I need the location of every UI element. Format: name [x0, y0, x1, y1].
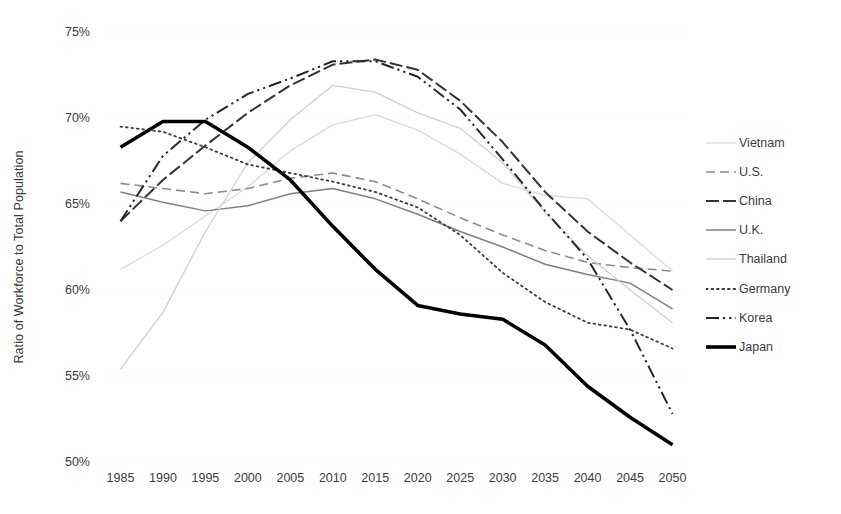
series-line-thailand — [121, 85, 673, 369]
series-line-uk — [121, 189, 673, 309]
legend-item-label: U.K. — [739, 223, 763, 237]
legend-line-swatch-icon — [706, 165, 736, 179]
legend-line-swatch-icon — [706, 136, 736, 150]
legend-item-us[interactable]: U.S. — [706, 157, 836, 186]
legend-item-label: Korea — [739, 311, 772, 325]
legend-line-swatch-icon — [706, 311, 736, 325]
legend-line-swatch-icon — [706, 282, 736, 296]
series-line-china — [121, 60, 673, 290]
series-line-korea — [121, 61, 673, 414]
legend-item-label: China — [739, 194, 772, 208]
legend-item-label: Vietnam — [739, 136, 785, 150]
legend-line-swatch-icon — [706, 340, 736, 354]
legend-item-japan[interactable]: Japan — [706, 332, 836, 361]
legend-item-label: Japan — [739, 340, 773, 354]
legend-item-label: Germany — [739, 282, 790, 296]
legend-item-china[interactable]: China — [706, 186, 836, 215]
series-line-japan — [121, 121, 673, 444]
legend-item-uk[interactable]: U.K. — [706, 216, 836, 245]
series-line-germany — [121, 127, 673, 349]
legend-item-vietnam[interactable]: Vietnam — [706, 128, 836, 157]
series-line-vietnam — [121, 115, 673, 272]
legend-line-swatch-icon — [706, 252, 736, 266]
legend-item-label: Thailand — [739, 252, 787, 266]
line-chart: Ratio of Workforce to Total Population 7… — [0, 0, 841, 514]
legend-item-korea[interactable]: Korea — [706, 303, 836, 332]
legend-item-thailand[interactable]: Thailand — [706, 245, 836, 274]
legend-item-germany[interactable]: Germany — [706, 274, 836, 303]
chart-legend: VietnamU.S.ChinaU.K.ThailandGermanyKorea… — [706, 128, 836, 362]
series-line-us — [121, 173, 673, 271]
legend-line-swatch-icon — [706, 223, 736, 237]
legend-line-swatch-icon — [706, 194, 736, 208]
legend-item-label: U.S. — [739, 165, 763, 179]
